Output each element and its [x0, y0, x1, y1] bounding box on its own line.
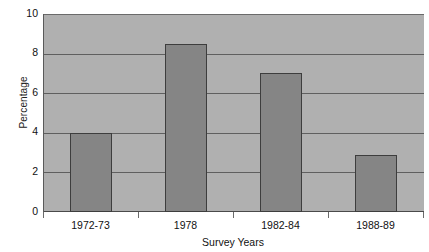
bar-1978: [165, 44, 207, 212]
y-tick-label: 6: [2, 87, 38, 98]
x-axis-title: Survey Years: [43, 236, 423, 248]
gridline-8: [44, 54, 424, 55]
x-tick: [233, 212, 234, 218]
x-tick: [43, 212, 44, 218]
plot-area: [43, 14, 424, 212]
y-tick-label: 0: [2, 206, 38, 217]
y-tick-label: 10: [2, 8, 38, 19]
x-tick: [423, 212, 424, 218]
x-tick-label-1972-73: 1972-73: [43, 219, 138, 231]
gridline-6: [44, 93, 424, 94]
x-tick-label-1988-89: 1988-89: [328, 219, 423, 231]
y-tick-label: 2: [2, 166, 38, 177]
x-tick: [328, 212, 329, 218]
x-tick: [138, 212, 139, 218]
bar-1982-84: [260, 73, 302, 212]
bar-1972-73: [70, 133, 112, 212]
plot-inner: [44, 14, 424, 212]
x-tick-label-1978: 1978: [138, 219, 233, 231]
y-axis-tick-labels: 10 8 6 4 2 0: [0, 0, 38, 252]
bar-chart: Percentage 10 8 6 4 2 0 1972-73: [0, 0, 429, 252]
x-tick-label-1982-84: 1982-84: [233, 219, 328, 231]
bar-1988-89: [355, 155, 397, 212]
gridline-10: [44, 14, 424, 15]
y-tick-label: 8: [2, 47, 38, 58]
y-tick-label: 4: [2, 126, 38, 137]
